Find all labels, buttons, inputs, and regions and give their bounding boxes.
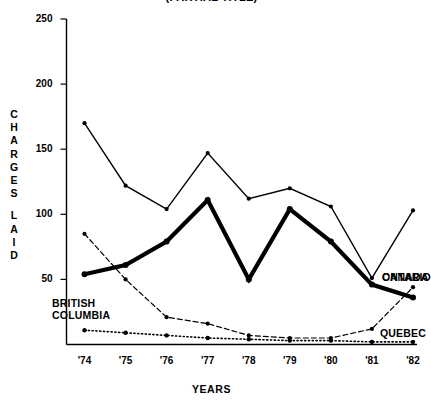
data-point <box>246 276 252 282</box>
data-point <box>206 322 210 326</box>
data-point <box>370 276 374 280</box>
data-point <box>410 295 416 301</box>
y-axis-ticks <box>61 19 67 279</box>
data-point <box>165 315 169 319</box>
data-point <box>124 277 128 281</box>
series-label-british-columbia-line1: BRITISH <box>52 297 110 309</box>
x-axis-tick-label: '82 <box>396 355 430 366</box>
series-line <box>85 234 414 338</box>
data-point <box>411 285 415 289</box>
series-layer <box>82 121 417 344</box>
series-british-columbia <box>82 232 415 340</box>
series-ontario <box>82 197 417 301</box>
data-point <box>411 208 415 212</box>
data-point <box>82 271 88 277</box>
data-point <box>165 207 169 211</box>
data-point <box>164 239 170 245</box>
x-axis-tick-label: '77 <box>191 355 225 366</box>
series-label-quebec: QUEBEC <box>380 327 426 339</box>
data-point <box>82 328 86 332</box>
data-point <box>82 232 86 236</box>
y-axis-tick-label: 150 <box>17 143 53 154</box>
data-point <box>247 333 251 337</box>
y-axis-tick-label: 200 <box>17 78 53 89</box>
data-point <box>247 337 251 341</box>
series-label-british-columbia: BRITISH COLUMBIA <box>52 297 110 321</box>
data-point <box>82 121 86 125</box>
x-axis-tick-label: '75 <box>109 355 143 366</box>
data-point <box>328 239 334 245</box>
series-label-british-columbia-line2: COLUMBIA <box>52 309 110 321</box>
data-point <box>411 340 415 344</box>
x-axis-title: YEARS <box>0 383 423 395</box>
data-point <box>247 197 251 201</box>
data-point <box>370 340 374 344</box>
x-axis-tick-label: '76 <box>150 355 184 366</box>
data-point <box>205 197 211 203</box>
data-point <box>206 336 210 340</box>
y-axis-tick-label: 50 <box>17 273 53 284</box>
y-axis-tick-label: 100 <box>17 208 53 219</box>
data-point <box>123 331 127 335</box>
data-point <box>123 262 129 268</box>
x-axis-tick-label: '78 <box>232 355 266 366</box>
x-axis-tick-label: '80 <box>314 355 348 366</box>
data-point <box>124 184 128 188</box>
series-label-ontario: ONTARIO <box>382 271 431 283</box>
data-point <box>329 338 333 342</box>
x-axis-tick-label: '79 <box>273 355 307 366</box>
series-line <box>85 200 414 298</box>
data-point <box>164 333 168 337</box>
data-point <box>287 206 293 212</box>
data-point <box>369 282 375 288</box>
x-axis-tick-label: '74 <box>68 355 102 366</box>
x-axis-tick-label: '81 <box>355 355 389 366</box>
data-point <box>370 327 374 331</box>
data-point <box>329 204 333 208</box>
data-point <box>288 338 292 342</box>
series-canada <box>82 121 415 280</box>
axis-lines <box>67 19 418 345</box>
data-point <box>288 186 292 190</box>
y-axis-tick-label: 250 <box>17 13 53 24</box>
data-point <box>206 151 210 155</box>
